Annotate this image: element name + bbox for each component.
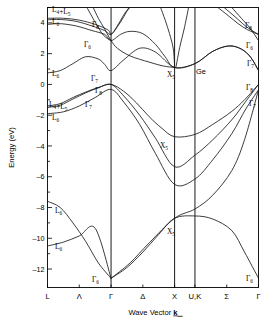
symmetry-point-label: Γ7	[91, 74, 98, 84]
y-tick-label: –4	[37, 142, 45, 151]
symmetry-point-label: Γ6	[84, 40, 91, 50]
symmetry-point-label: Γ8	[245, 21, 252, 31]
band-curves-group	[48, 8, 259, 279]
symmetry-point-label: Γ7	[85, 100, 92, 110]
band-curve-conduction-band-10-right-gamma2	[224, 8, 258, 35]
y-tick-label: –10	[33, 234, 45, 243]
symmetry-point-label: L6	[55, 206, 63, 216]
band-curve-valence-band-2-light-hole	[48, 84, 259, 167]
band-curve-valence-band-5-x5-upper	[48, 226, 112, 278]
symmetry-point-label: Γ6	[246, 274, 253, 284]
symmetry-point-label: L6	[52, 113, 60, 123]
symmetry-point-label: Γ8	[92, 20, 99, 30]
x-tick-label: Γ	[109, 292, 113, 301]
x-tick-label: X	[172, 292, 177, 301]
symmetry-point-label: X5	[160, 141, 168, 151]
y-tick-label: –12	[33, 265, 45, 274]
symmetry-point-label: L6	[55, 242, 63, 252]
symmetry-point-label: Γ8	[246, 83, 253, 93]
y-tick-label: 0	[41, 80, 45, 89]
y-tick-label: –8	[37, 203, 45, 212]
symmetry-lines-group	[111, 8, 195, 288]
y-tick-label: –2	[37, 111, 45, 120]
band-structure-plot: 420–2–4–6–8–10–12 LΛΓΔXU,KΣΓ L4+L5L6L6L4…	[0, 0, 269, 317]
band-curve-conduction-band-8-x-rise2	[176, 8, 189, 68]
x-tick-label: Λ	[77, 292, 83, 301]
x-tick-label: L	[45, 292, 49, 301]
band-curve-valence-band-3-split-off	[48, 89, 259, 186]
y-tick-label: 4	[41, 18, 45, 27]
y-axis-ticks-group: 420–2–4–6–8–10–12	[33, 8, 53, 274]
x-tick-label: U,K	[189, 292, 202, 301]
band-annotations-group: L4+L5L6L6L4+L5L6L6L6Γ8Γ6Γ7Γ8Γ7Γ6X5X5X5Γ8…	[49, 5, 256, 285]
symmetry-point-label: L6	[52, 69, 60, 79]
x-tick-label: Σ	[224, 292, 229, 301]
x-tick-label: Γ	[256, 292, 260, 301]
band-curve-conduction-band-6-steep-left	[87, 8, 111, 41]
symmetry-point-label: Γ6	[246, 41, 253, 51]
symmetry-point-label: X5	[167, 227, 175, 237]
band-curve-conduction-band-1-L6-lowest	[48, 46, 259, 73]
y-axis-title: Energy (eV)	[7, 127, 16, 168]
material-label: Ge	[196, 67, 206, 76]
x-axis-tick-labels-group: LΛΓΔXU,KΣΓ	[45, 285, 260, 302]
symmetry-point-label: L4+L5	[52, 5, 71, 17]
band-curve-valence-band-1-heavy-hole	[48, 84, 259, 137]
band-curve-valence-band-5-x5-branch	[111, 90, 258, 278]
symmetry-point-label: Γ8	[95, 86, 102, 96]
x-tick-label: Δ	[140, 292, 145, 301]
x-axis-title: Wave Vector k	[128, 308, 178, 317]
y-tick-label: –6	[37, 172, 45, 181]
plot-border	[48, 8, 259, 288]
y-tick-label: 2	[41, 49, 45, 58]
symmetry-point-label: X5	[167, 70, 175, 80]
symmetry-point-label: Γ6	[92, 275, 99, 285]
band-curve-valence-band-4-lower-right	[111, 216, 258, 278]
wave-vector-symbol: k	[173, 308, 178, 317]
band-structure-figure: 420–2–4–6–8–10–12 LΛΓΔXU,KΣΓ L4+L5L6L6L4…	[0, 0, 269, 317]
plot-frame	[48, 8, 259, 288]
